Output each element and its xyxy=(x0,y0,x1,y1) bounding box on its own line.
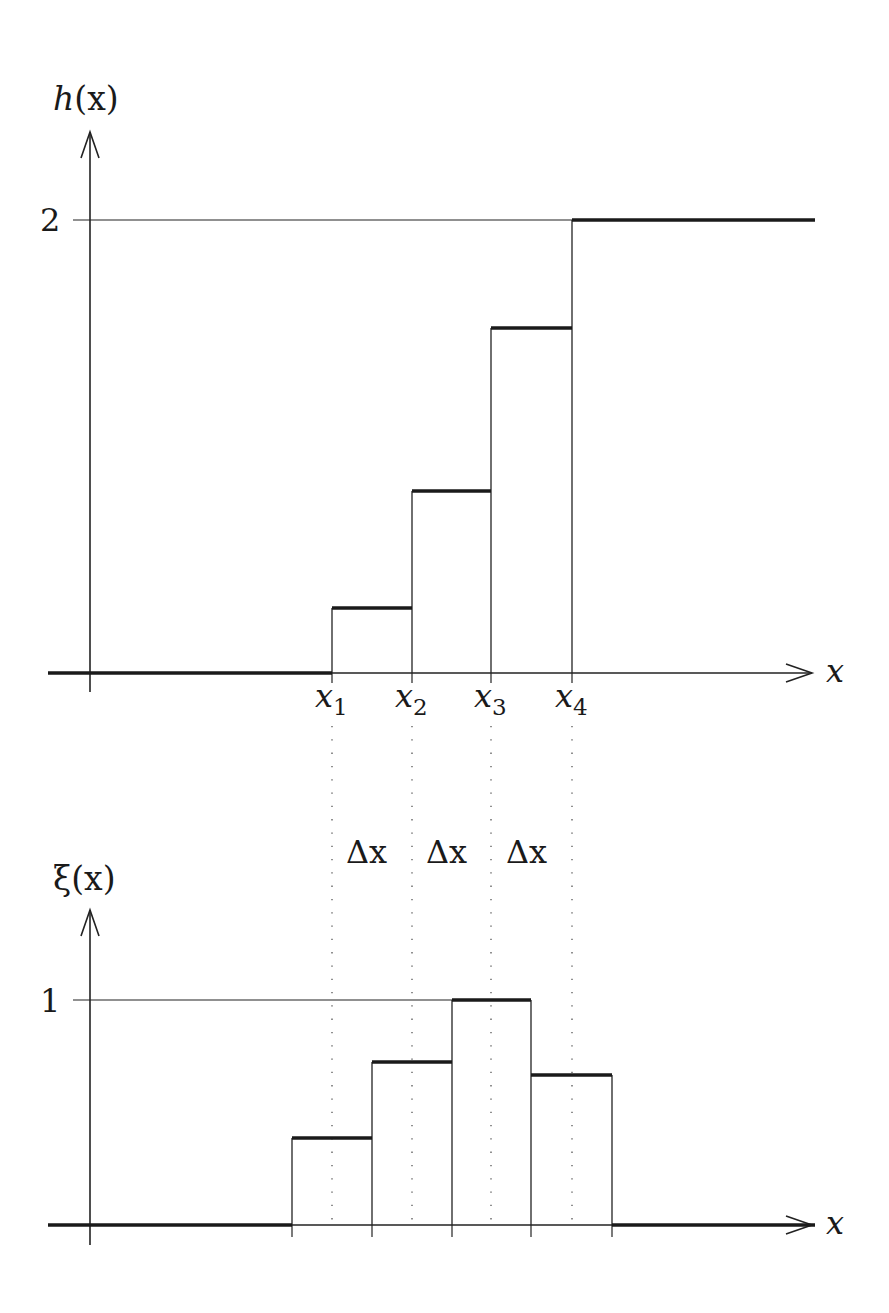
delta-x-label-3: Δx xyxy=(506,833,547,871)
step-function-h xyxy=(48,220,815,673)
y-axis-label: ξ(x) xyxy=(53,859,116,898)
lower-plot: ξ(x) 1 x xyxy=(40,859,844,1245)
histogram-xi xyxy=(48,1000,815,1225)
x-tick-label-x4: x4 xyxy=(555,677,588,720)
delta-x-label-1: Δx xyxy=(346,833,387,871)
x-axis-label: x xyxy=(826,1204,844,1242)
delta-x-label-2: Δx xyxy=(426,833,467,871)
y-tick-label-2: 2 xyxy=(40,201,60,239)
x-tick-label-x3: x3 xyxy=(474,677,507,720)
x-axis-label: x xyxy=(826,652,844,690)
y-tick-label-1: 1 xyxy=(40,982,60,1020)
upper-plot: h(x) 2 x x1 x2 x3 x4 xyxy=(40,79,844,720)
figure: h(x) 2 x x1 x2 x3 x4 Δx Δx Δx xyxy=(0,0,889,1313)
y-axis-label: h(x) xyxy=(53,79,119,118)
x-tick-label-x1: x1 xyxy=(315,677,348,720)
x-tick-label-x2: x2 xyxy=(395,677,428,720)
